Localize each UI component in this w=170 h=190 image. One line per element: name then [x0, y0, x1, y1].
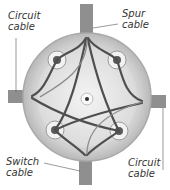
label-line: cable	[8, 21, 40, 32]
label-line: Circuit	[8, 10, 40, 21]
label-line: cable	[128, 168, 160, 179]
label-line: Switch	[6, 156, 39, 167]
label-circuit-cable-bottom-right: Circuit cable	[128, 157, 160, 179]
label-line: cable	[122, 19, 149, 30]
label-line: Spur	[122, 8, 149, 19]
leader-line-bottom-left	[44, 163, 80, 171]
label-switch-cable: Switch cable	[6, 156, 39, 178]
label-spur-cable: Spur cable	[122, 8, 149, 30]
label-circuit-cable-top-left: Circuit cable	[8, 10, 40, 32]
label-line: cable	[6, 167, 39, 178]
leader-line-top-right	[93, 24, 118, 28]
label-line: Circuit	[128, 157, 160, 168]
